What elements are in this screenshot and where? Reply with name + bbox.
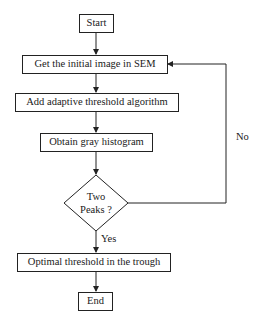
yes-label: Yes	[101, 233, 116, 244]
end-label: End	[87, 296, 104, 307]
add-algorithm-node: Add adaptive threshold algorithm	[15, 93, 179, 112]
decision-line-1: Two	[64, 190, 128, 203]
connector-lines	[0, 0, 270, 325]
decision-node: Two Peaks ?	[64, 190, 128, 216]
decision-line-2: Peaks ?	[64, 203, 128, 216]
start-node: Start	[79, 14, 114, 33]
histogram-node: Obtain gray histogram	[40, 133, 153, 152]
histogram-label: Obtain gray histogram	[49, 137, 143, 148]
no-label: No	[236, 131, 249, 142]
end-node: End	[78, 292, 113, 311]
start-label: Start	[87, 18, 107, 29]
get-image-label: Get the initial image in SEM	[34, 59, 155, 70]
optimal-node: Optimal threshold in the trough	[17, 253, 171, 272]
get-image-node: Get the initial image in SEM	[22, 55, 168, 74]
optimal-label: Optimal threshold in the trough	[28, 257, 160, 268]
add-algorithm-label: Add adaptive threshold algorithm	[26, 97, 167, 108]
